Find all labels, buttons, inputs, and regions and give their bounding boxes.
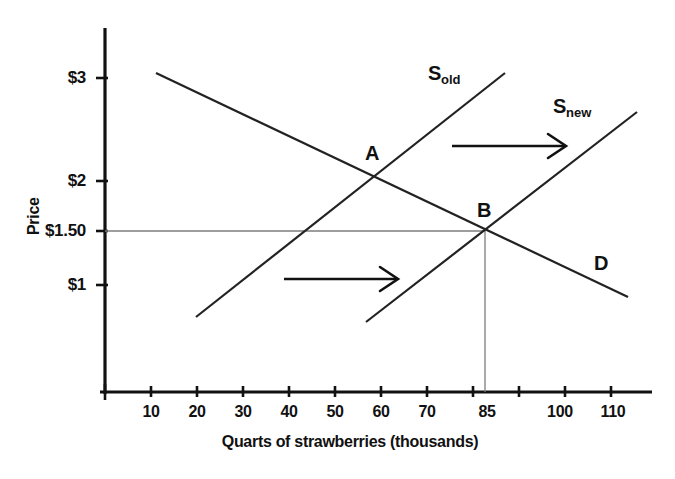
curve-label-supply-old-main: S	[428, 62, 441, 84]
y-tick-label-3: $3	[20, 69, 86, 86]
equilibrium-label-a: A	[365, 143, 379, 163]
x-axis-title: Quarts of strawberries (thousands)	[222, 434, 479, 450]
supply-curve-new	[366, 112, 637, 322]
curve-label-demand: D	[594, 253, 608, 273]
shift-arrow-upper-icon	[452, 134, 566, 158]
curve-label-supply-new-main: S	[553, 95, 566, 117]
x-tick-label-50: 50	[326, 404, 343, 420]
y-axis-title: Price	[26, 197, 42, 235]
equilibrium-label-b: B	[477, 200, 491, 220]
x-tick-label-70: 70	[418, 404, 435, 420]
x-tick-label-20: 20	[188, 404, 205, 420]
x-tick-label-100: 100	[547, 404, 573, 420]
x-tick-label-10: 10	[142, 404, 159, 420]
y-tick-label-2: $2	[20, 172, 86, 189]
x-tick-label-85: 85	[478, 404, 495, 420]
curve-label-supply-old: Sold	[428, 63, 461, 83]
curve-label-supply-old-sub: old	[441, 72, 461, 87]
curve-label-supply-new: Snew	[553, 96, 591, 116]
supply-curve-old	[196, 73, 505, 317]
supply-demand-chart: $3 $2 $1.50 $1 Price 10 20 30 40 50 60 7…	[0, 0, 675, 479]
x-tick-label-110: 110	[601, 404, 626, 420]
x-tick-label-30: 30	[234, 404, 251, 420]
y-tick-label-1: $1	[20, 276, 86, 293]
x-tick-label-60: 60	[372, 404, 389, 420]
curve-label-supply-new-sub: new	[566, 105, 591, 120]
x-tick-label-40: 40	[280, 404, 297, 420]
shift-arrow-lower-icon	[284, 267, 398, 291]
